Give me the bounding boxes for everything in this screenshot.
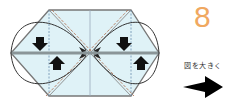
arrow-right-icon[interactable] bbox=[183, 76, 223, 98]
center-band bbox=[11, 52, 159, 55]
enlarge-label[interactable]: 図を大きく bbox=[184, 60, 222, 70]
step-number: 8 bbox=[194, 0, 211, 34]
